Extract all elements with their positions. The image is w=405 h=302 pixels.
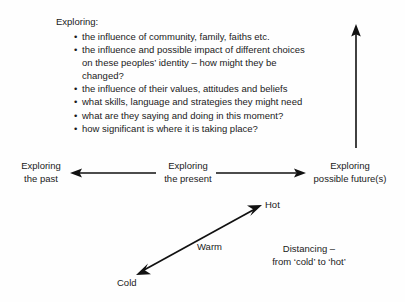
exploring-block: Exploring: • the influence of community,… bbox=[56, 15, 306, 136]
bullet-glyph: • bbox=[74, 31, 77, 44]
list-item: • the influence of their values, attitud… bbox=[56, 83, 306, 96]
axis-label-past-line1: Exploring bbox=[21, 160, 61, 171]
list-item-text: how significant is where it is taking pl… bbox=[82, 123, 306, 136]
list-item: • the influence and possible impact of d… bbox=[56, 44, 306, 82]
bullet-glyph: • bbox=[74, 96, 77, 109]
bullet-glyph: • bbox=[74, 83, 77, 96]
list-item-text: what skills, language and strategies the… bbox=[82, 96, 306, 109]
axis-label-past: Exploring the past bbox=[6, 160, 76, 185]
axis-label-future: Exploring possible future(s) bbox=[297, 160, 403, 185]
bullet-glyph: • bbox=[74, 123, 77, 136]
exploring-heading: Exploring: bbox=[56, 15, 306, 28]
list-item-text: the influence and possible impact of dif… bbox=[82, 44, 306, 82]
axis-label-past-line2: the past bbox=[24, 173, 58, 184]
exploring-bullet-list: • the influence of community, family, fa… bbox=[56, 31, 306, 136]
list-item: • the influence of community, family, fa… bbox=[56, 31, 306, 44]
bullet-glyph: • bbox=[74, 44, 77, 57]
right-arrow-icon bbox=[212, 165, 310, 181]
list-item-text: the influence of their values, attitudes… bbox=[82, 83, 306, 96]
axis-label-present-line1: Exploring bbox=[168, 160, 208, 171]
distancing-caption-line2: from ‘cold’ to ‘hot’ bbox=[255, 256, 363, 269]
diagram-canvas: Exploring: • the influence of community,… bbox=[0, 0, 405, 302]
axis-label-present-line2: the present bbox=[164, 173, 212, 184]
distancing-caption: Distancing – from ‘cold’ to ‘hot’ bbox=[255, 243, 363, 268]
list-item: • what are they saying and doing in this… bbox=[56, 110, 306, 123]
list-item: • how significant is where it is taking … bbox=[56, 123, 306, 136]
axis-label-present: Exploring the present bbox=[152, 160, 224, 185]
thermal-label-warm: Warm bbox=[197, 241, 222, 254]
thermal-label-hot: Hot bbox=[265, 199, 280, 212]
list-item: • what skills, language and strategies t… bbox=[56, 96, 306, 109]
list-item-text: the influence of community, family, fait… bbox=[82, 31, 306, 44]
left-arrow-icon bbox=[68, 165, 160, 181]
bullet-glyph: • bbox=[74, 110, 77, 123]
axis-label-future-line2: possible future(s) bbox=[314, 173, 387, 184]
distancing-caption-line1: Distancing – bbox=[283, 243, 335, 254]
list-item-text: what are they saying and doing in this m… bbox=[82, 110, 306, 123]
axis-label-future-line1: Exploring bbox=[330, 160, 370, 171]
vertical-up-arrow-icon bbox=[340, 20, 374, 152]
thermal-label-cold: Cold bbox=[117, 277, 137, 290]
